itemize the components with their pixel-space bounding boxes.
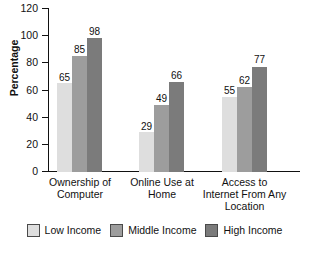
bar-fill xyxy=(57,83,72,172)
bar-fill xyxy=(154,105,169,172)
y-tick-label-40: 40 xyxy=(8,112,38,122)
bar-group-internet-access: 55 62 77 xyxy=(222,8,268,172)
bar-fill xyxy=(237,87,252,172)
y-tick-0 xyxy=(42,171,48,172)
legend-label: Low Income xyxy=(45,225,102,236)
legend-label: Middle Income xyxy=(128,225,196,236)
bar-fill xyxy=(169,82,184,172)
x-category-label-internet-access: Access to Internet From Any Location xyxy=(192,176,297,212)
bar-value-label: 85 xyxy=(74,45,85,55)
bar-value-label: 49 xyxy=(156,94,167,104)
legend-swatch-icon xyxy=(110,224,123,237)
legend-swatch-icon xyxy=(27,224,40,237)
bar-fill xyxy=(72,56,87,172)
x-category-label-ownership: Ownership of Computer xyxy=(40,176,120,200)
y-tick-label-80: 80 xyxy=(8,57,38,67)
y-tick-120 xyxy=(42,8,48,9)
y-tick-100 xyxy=(42,35,48,36)
x-category-label-online-use: Online Use at Home xyxy=(122,176,202,200)
bar-value-label: 65 xyxy=(59,73,70,83)
y-tick-60 xyxy=(42,90,48,91)
y-axis-title: Percentage xyxy=(8,28,20,108)
bar-value-label: 62 xyxy=(239,76,250,86)
legend-item-high-income[interactable]: High Income xyxy=(205,224,282,237)
y-tick-label-0: 0 xyxy=(8,166,38,176)
bar-fill xyxy=(252,67,267,172)
y-tick-40 xyxy=(42,117,48,118)
bar-value-label: 66 xyxy=(171,71,182,81)
bar-value-label: 98 xyxy=(89,27,100,37)
y-tick-label-100: 100 xyxy=(8,30,38,40)
y-tick-20 xyxy=(42,144,48,145)
bar-value-label: 77 xyxy=(254,55,265,65)
legend-swatch-icon xyxy=(205,224,218,237)
y-tick-label-60: 60 xyxy=(8,85,38,95)
legend-label: High Income xyxy=(223,225,282,236)
chart-legend: Low Income Middle Income High Income xyxy=(0,224,309,237)
legend-item-middle-income[interactable]: Middle Income xyxy=(110,224,196,237)
bar-group-ownership: 65 85 98 xyxy=(57,8,103,172)
bar-chart: Percentage 120 100 80 60 40 20 0 65 85 9… xyxy=(0,0,309,253)
bar-fill xyxy=(139,132,154,172)
bar-value-label: 55 xyxy=(224,86,235,96)
y-tick-label-20: 20 xyxy=(8,139,38,149)
y-axis-line xyxy=(48,8,49,172)
y-tick-label-120: 120 xyxy=(8,3,38,13)
bar-value-label: 29 xyxy=(141,122,152,132)
bar-fill xyxy=(222,97,237,172)
bar-fill xyxy=(87,38,102,172)
legend-item-low-income[interactable]: Low Income xyxy=(27,224,102,237)
bar-group-online-use: 29 49 66 xyxy=(139,8,185,172)
y-tick-80 xyxy=(42,62,48,63)
